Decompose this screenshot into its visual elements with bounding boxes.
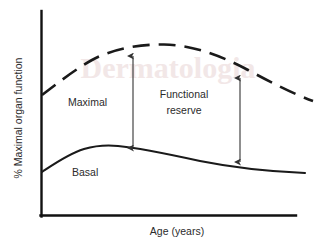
- y-axis-title: % Maximal organ function: [12, 57, 24, 178]
- chart-container: Dermatologia Maximal Basal Funct: [0, 0, 327, 249]
- watermark-text: Dermatologia: [81, 51, 256, 84]
- series-label-basal: Basal: [72, 166, 98, 178]
- functional-reserve-label-line2: reserve: [166, 104, 201, 116]
- x-axis-title: Age (years): [150, 225, 204, 237]
- functional-reserve-line-chart: Dermatologia Maximal Basal Funct: [0, 0, 327, 249]
- functional-reserve-label: Functional reserve: [160, 88, 208, 116]
- functional-reserve-label-line1: Functional: [160, 88, 208, 100]
- series-label-maximal: Maximal: [68, 96, 107, 108]
